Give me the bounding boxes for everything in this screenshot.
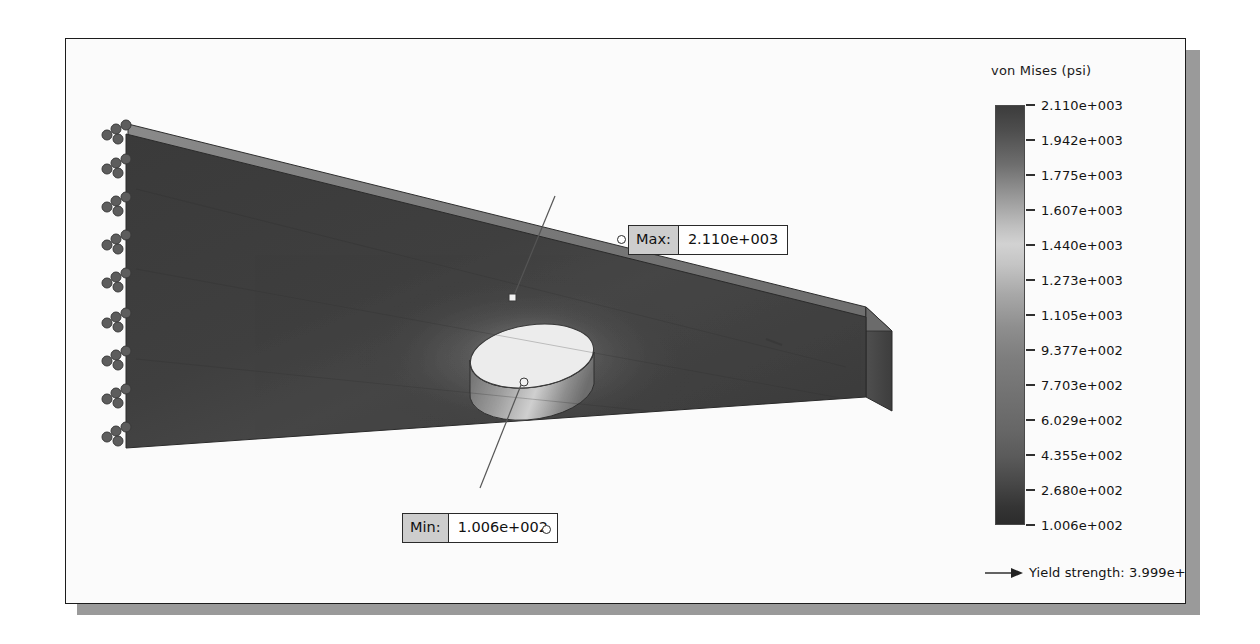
legend-tick: [1026, 419, 1035, 421]
legend-tick: [1026, 174, 1035, 176]
max-leader-endpoint: [509, 294, 516, 301]
legend-tick-label: 1.105e+003: [1041, 308, 1123, 323]
legend-tick: [1026, 349, 1035, 351]
legend-tick-label: 6.029e+002: [1041, 413, 1123, 428]
legend-tick-label: 7.703e+002: [1041, 378, 1123, 393]
right-arrow-icon: [985, 567, 1025, 579]
legend-colorbar[interactable]: [995, 105, 1025, 525]
legend-tick: [1026, 139, 1035, 141]
max-stress-callout[interactable]: Max: 2.110e+003: [628, 225, 788, 255]
yield-strength-row: Yield strength: 3.999e+003: [985, 565, 1186, 580]
plate-right-top-face: [866, 307, 892, 331]
legend-tick-label: 1.273e+003: [1041, 273, 1123, 288]
min-callout-label: Min:: [403, 514, 449, 542]
legend-tick-label: 1.942e+003: [1041, 133, 1123, 148]
legend-tick-label: 1.775e+003: [1041, 168, 1123, 183]
legend-tick: [1026, 314, 1035, 316]
legend-tick: [1026, 209, 1035, 211]
fea-result-viewport[interactable]: Max: 2.110e+003 Min: 1.006e+002 von Mise…: [65, 38, 1186, 604]
legend-tick: [1026, 454, 1035, 456]
legend-tick: [1026, 104, 1035, 106]
legend-tick: [1026, 384, 1035, 386]
legend-tick-label: 2.680e+002: [1041, 483, 1123, 498]
max-callout-value: 2.110e+003: [679, 226, 787, 254]
min-callout-value: 1.006e+002: [449, 514, 557, 542]
legend-tick: [1026, 524, 1035, 526]
legend-title: von Mises (psi): [991, 63, 1091, 78]
yield-strength-label: Yield strength: 3.999e+003: [1029, 565, 1186, 580]
von-mises-legend[interactable]: von Mises (psi) 2.110e+0031.942e+0031.77…: [971, 49, 1186, 603]
legend-tick-label: 1.006e+002: [1041, 518, 1123, 533]
legend-colorbar-wrap: [995, 105, 1025, 525]
min-callout-anchor-dot: [542, 525, 551, 534]
max-callout-anchor-dot: [617, 235, 626, 244]
min-stress-callout[interactable]: Min: 1.006e+002: [402, 513, 558, 543]
legend-tick-label: 2.110e+003: [1041, 98, 1123, 113]
legend-tick-label: 9.377e+002: [1041, 343, 1123, 358]
legend-tick-label: 1.440e+003: [1041, 238, 1123, 253]
min-leader-endpoint: [520, 378, 528, 386]
legend-tick-label: 1.607e+003: [1041, 203, 1123, 218]
legend-tick: [1026, 489, 1035, 491]
legend-tick: [1026, 279, 1035, 281]
legend-tick-label: 4.355e+002: [1041, 448, 1123, 463]
max-callout-label: Max:: [629, 226, 679, 254]
legend-tick: [1026, 244, 1035, 246]
